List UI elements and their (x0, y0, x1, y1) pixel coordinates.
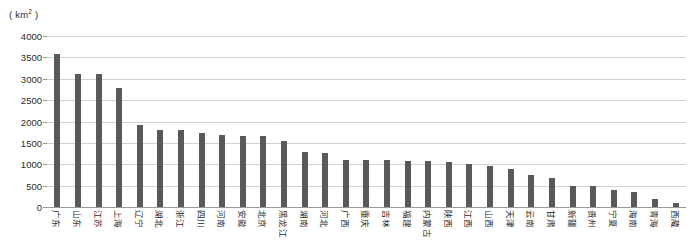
bar (549, 178, 555, 207)
bar-slot (624, 36, 645, 207)
bar (570, 186, 576, 207)
bar (611, 190, 617, 207)
x-label-slot: 吉林 (377, 208, 398, 252)
bar-slot (480, 36, 501, 207)
bar-slot (171, 36, 192, 207)
x-label-slot: 湖南 (294, 208, 315, 252)
y-axis-tick-label: 4000 (21, 31, 42, 42)
bar (302, 152, 308, 207)
unit-label-tail: ) (32, 9, 38, 20)
bar (590, 186, 596, 207)
x-axis-tick-labels: 广东山东江苏上海辽宁湖北浙江四川河南安徽北京黑龙江湖南河北广西重庆吉林福建内蒙古… (47, 208, 686, 252)
y-axis-tick-label: 3500 (21, 52, 42, 63)
x-label-slot: 安徽 (232, 208, 253, 252)
x-label-slot: 青海 (645, 208, 666, 252)
x-axis-tick-label: 贵州 (587, 210, 599, 229)
x-label-slot: 天津 (500, 208, 521, 252)
bar-slot (521, 36, 542, 207)
x-axis-tick-label: 黑龙江 (278, 210, 290, 238)
x-label-slot: 江西 (459, 208, 480, 252)
x-axis-tick-label: 海南 (628, 210, 640, 229)
x-label-slot: 甘肃 (542, 208, 563, 252)
x-label-slot: 海南 (624, 208, 645, 252)
x-axis-tick-label: 四川 (196, 210, 208, 229)
bar (219, 135, 225, 207)
x-label-slot: 云南 (521, 208, 542, 252)
x-axis-tick-label: 北京 (257, 210, 269, 229)
x-label-slot: 广西 (336, 208, 357, 252)
x-axis-tick-label: 山东 (72, 210, 84, 229)
bar-slot (68, 36, 89, 207)
bar (116, 88, 122, 207)
x-axis-tick-label: 湖南 (299, 210, 311, 229)
x-axis-tick-label: 上海 (113, 210, 125, 229)
bar (199, 133, 205, 207)
x-label-slot: 广东 (47, 208, 68, 252)
x-axis-tick-label: 宁夏 (608, 210, 620, 229)
bar (54, 54, 60, 207)
x-axis-tick-label: 新疆 (567, 210, 579, 229)
bar-slot (459, 36, 480, 207)
y-axis-tick-label: 1000 (21, 159, 42, 170)
bar-slot (336, 36, 357, 207)
bar-series (47, 36, 686, 207)
x-axis-tick-label: 重庆 (360, 210, 372, 229)
bar-slot (583, 36, 604, 207)
bar (528, 175, 534, 207)
bar (425, 161, 431, 207)
bar-slot (665, 36, 686, 207)
x-axis-tick-label: 安徽 (237, 210, 249, 229)
x-label-slot: 山东 (68, 208, 89, 252)
x-axis-tick-label: 河北 (319, 210, 331, 229)
bar (137, 125, 143, 208)
bar (343, 160, 349, 207)
bar-slot (418, 36, 439, 207)
bar (281, 141, 287, 207)
bar (466, 164, 472, 207)
bar (446, 162, 452, 207)
x-label-slot: 宁夏 (603, 208, 624, 252)
bar-slot (356, 36, 377, 207)
bar (178, 130, 184, 207)
x-label-slot: 西藏 (665, 208, 686, 252)
bar-slot (109, 36, 130, 207)
y-axis-unit-label: ( km2 ) (9, 8, 38, 20)
x-label-slot: 四川 (191, 208, 212, 252)
bar (652, 199, 658, 207)
x-label-slot: 黑龙江 (274, 208, 295, 252)
y-axis-tick-label: 2000 (21, 116, 42, 127)
bar-slot (294, 36, 315, 207)
x-label-slot: 山西 (480, 208, 501, 252)
bar (260, 136, 266, 207)
x-label-slot: 贵州 (583, 208, 604, 252)
x-label-slot: 内蒙古 (418, 208, 439, 252)
bar-slot (645, 36, 666, 207)
x-axis-tick-label: 广东 (51, 210, 63, 229)
bar (157, 130, 163, 207)
x-axis-tick-label: 青海 (649, 210, 661, 229)
bar (384, 160, 390, 207)
bar-slot (232, 36, 253, 207)
unit-label-base: ( km (9, 9, 28, 20)
bar-slot (191, 36, 212, 207)
x-axis-tick-label: 内蒙古 (422, 210, 434, 238)
bar-slot (603, 36, 624, 207)
x-label-slot: 辽宁 (129, 208, 150, 252)
y-axis-tick-label: 0 (37, 202, 42, 213)
x-axis-tick-label: 甘肃 (546, 210, 558, 229)
x-axis-tick-label: 浙江 (175, 210, 187, 229)
bar (322, 153, 328, 207)
bar (508, 169, 514, 207)
x-axis-tick-label: 湖北 (154, 210, 166, 229)
bar (96, 74, 102, 207)
bar-slot (542, 36, 563, 207)
bar (673, 203, 679, 207)
y-axis-tick-label: 1500 (21, 137, 42, 148)
bar-slot (397, 36, 418, 207)
x-label-slot: 陕西 (439, 208, 460, 252)
x-axis-tick-label: 河南 (216, 210, 228, 229)
x-label-slot: 新疆 (562, 208, 583, 252)
bar-chart: ( km2 ) 广东山东江苏上海辽宁湖北浙江四川河南安徽北京黑龙江湖南河北广西重… (0, 0, 693, 252)
x-axis-tick-label: 云南 (525, 210, 537, 229)
plot-area (47, 36, 686, 207)
